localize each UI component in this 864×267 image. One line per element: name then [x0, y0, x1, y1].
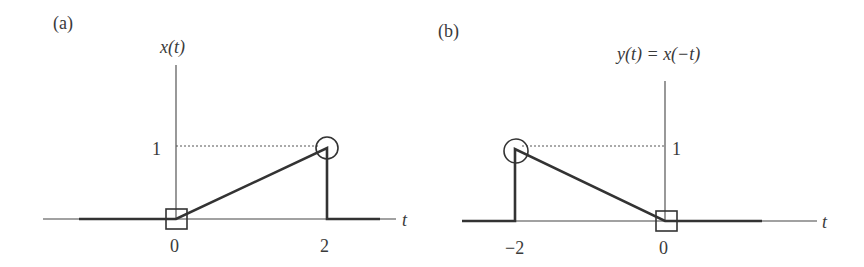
panel-b-xtick-neg2: −2: [505, 238, 524, 258]
panel-a: (a) x(t) t 1 0 2: [43, 13, 408, 256]
panel-a-signal: [79, 148, 380, 219]
panel-b-xlabel: t: [822, 212, 828, 232]
panel-a-xlabel: t: [402, 210, 408, 230]
panel-a-ytick-1: 1: [152, 139, 161, 159]
panel-b-xtick-0: 0: [659, 238, 668, 258]
figure-canvas: (a) x(t) t 1 0 2 (b) y(t) = x(−t) t 1: [0, 0, 864, 267]
panel-b-ytick-1: 1: [672, 139, 681, 159]
panel-a-ylabel: x(t): [159, 37, 185, 58]
panel-b-tag: (b): [438, 21, 459, 42]
panel-a-xtick-2: 2: [320, 236, 329, 256]
panel-a-tag: (a): [53, 13, 73, 34]
panel-a-xtick-0: 0: [170, 236, 179, 256]
panel-b: (b) y(t) = x(−t) t 1 −2 0: [438, 21, 828, 258]
panel-b-ylabel: y(t) = x(−t): [615, 44, 700, 65]
